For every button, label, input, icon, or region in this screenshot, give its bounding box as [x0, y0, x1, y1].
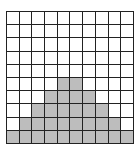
- grid-cell: [58, 38, 71, 51]
- grid-cell: [32, 25, 45, 38]
- grid-cell: [109, 91, 122, 104]
- grid-cell: [96, 25, 109, 38]
- grid-cell: [121, 12, 134, 25]
- grid-cell: [7, 104, 20, 117]
- grid-cell: [32, 131, 45, 144]
- grid-cell: [109, 52, 122, 65]
- grid-cell: [96, 91, 109, 104]
- grid-cell: [109, 65, 122, 78]
- grid-cell: [83, 131, 96, 144]
- grid-cell: [109, 38, 122, 51]
- grid-cell: [96, 131, 109, 144]
- grid-cell: [109, 131, 122, 144]
- grid-cell: [45, 91, 58, 104]
- grid-cell: [70, 25, 83, 38]
- grid-cell: [83, 38, 96, 51]
- grid-cell: [20, 52, 33, 65]
- grid-cell: [7, 25, 20, 38]
- grid-cell: [83, 52, 96, 65]
- grid-cell: [96, 65, 109, 78]
- grid-cell: [70, 38, 83, 51]
- grid-cell: [32, 118, 45, 131]
- grid-cell: [83, 104, 96, 117]
- grid-cell: [32, 78, 45, 91]
- grid-cell: [109, 78, 122, 91]
- grid-cell: [20, 38, 33, 51]
- grid-cell: [7, 12, 20, 25]
- grid-cell: [109, 12, 122, 25]
- grid-cell: [121, 52, 134, 65]
- grid-cell: [96, 12, 109, 25]
- grid-cell: [58, 91, 71, 104]
- grid-cell: [70, 91, 83, 104]
- grid-cell: [45, 65, 58, 78]
- grid-cell: [109, 25, 122, 38]
- grid-cell: [58, 131, 71, 144]
- grid-cell: [121, 38, 134, 51]
- grid-cell: [7, 131, 20, 144]
- grid-cell: [32, 65, 45, 78]
- grid-cell: [70, 52, 83, 65]
- grid-cell: [121, 25, 134, 38]
- grid-cell: [96, 52, 109, 65]
- grid-cell: [83, 65, 96, 78]
- grid-cell: [32, 38, 45, 51]
- grid-cell: [7, 118, 20, 131]
- grid-cell: [83, 118, 96, 131]
- grid-cell: [58, 118, 71, 131]
- grid-cell: [83, 78, 96, 91]
- grid-cell: [45, 25, 58, 38]
- grid-cell: [121, 118, 134, 131]
- grid-cell: [45, 104, 58, 117]
- grid-cell: [109, 118, 122, 131]
- grid-cell: [121, 131, 134, 144]
- grid-cell: [83, 91, 96, 104]
- grid-cell: [70, 78, 83, 91]
- grid-cell: [20, 91, 33, 104]
- grid-cell: [45, 12, 58, 25]
- grid-cell: [7, 38, 20, 51]
- grid-cell: [7, 52, 20, 65]
- grid-cell: [70, 65, 83, 78]
- grid-cell: [45, 118, 58, 131]
- grid-cell: [121, 78, 134, 91]
- grid-cell: [20, 131, 33, 144]
- grid-cell: [20, 104, 33, 117]
- grid-cell: [70, 104, 83, 117]
- grid-cell: [32, 52, 45, 65]
- grid-cell: [7, 65, 20, 78]
- grid-cell: [20, 12, 33, 25]
- grid-cell: [96, 118, 109, 131]
- grid-cell: [58, 65, 71, 78]
- grid-cell: [58, 104, 71, 117]
- grid-cell: [70, 131, 83, 144]
- grid-cell: [83, 12, 96, 25]
- grid-cell: [20, 25, 33, 38]
- grid-cell: [45, 78, 58, 91]
- grid-cell: [20, 78, 33, 91]
- grid-cell: [7, 91, 20, 104]
- grid-cell: [83, 25, 96, 38]
- grid-cell: [96, 78, 109, 91]
- grid-cell: [70, 12, 83, 25]
- grid-cell: [45, 38, 58, 51]
- grid-cell: [32, 12, 45, 25]
- grid-cell: [58, 52, 71, 65]
- grid-cell: [32, 91, 45, 104]
- grid-cell: [20, 65, 33, 78]
- grid-cell: [58, 78, 71, 91]
- grid-cell: [20, 118, 33, 131]
- grid-cell: [58, 12, 71, 25]
- grid-cell: [45, 131, 58, 144]
- grid-cell: [70, 118, 83, 131]
- grid-cell: [7, 78, 20, 91]
- grid-cell: [109, 104, 122, 117]
- grid-cell: [121, 65, 134, 78]
- grid-cell: [121, 91, 134, 104]
- grid-cell: [96, 38, 109, 51]
- grid-cell: [32, 104, 45, 117]
- grid-cell: [45, 52, 58, 65]
- grid-cell: [96, 104, 109, 117]
- grid-cell: [58, 25, 71, 38]
- grid-cell: [121, 104, 134, 117]
